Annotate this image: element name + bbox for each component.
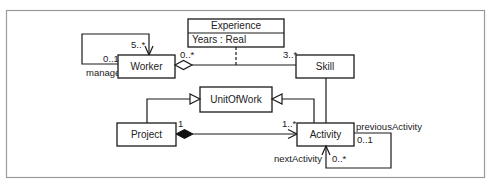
class-name: Skill (316, 61, 334, 72)
class-name: Worker (130, 61, 163, 72)
class-project[interactable]: Project (117, 123, 176, 146)
multiplicity-0-1-manager: 0..1 (103, 53, 119, 64)
class-name: Activity (310, 129, 342, 140)
multiplicity-activity: 1..* (282, 118, 297, 129)
class-name: Project (131, 129, 162, 140)
multiplicity-next: 0..* (332, 153, 347, 164)
multiplicity-project: 1 (178, 118, 183, 129)
class-skill[interactable]: Skill (296, 55, 354, 78)
multiplicity-worker: 0..* (180, 49, 195, 60)
class-experience[interactable]: Experience Years : Real (188, 19, 284, 47)
attribute-years: Years : Real (192, 34, 246, 45)
uml-class-diagram: 5..* 0..1 manager Worker 0..* 3..* Exper… (0, 0, 492, 184)
role-previous-activity: previousActivity (356, 121, 422, 132)
class-unit-of-work[interactable]: UnitOfWork (200, 87, 272, 112)
class-name: UnitOfWork (210, 94, 262, 105)
role-next-activity: nextActivity (274, 153, 322, 164)
class-name: Experience (211, 20, 261, 31)
class-worker[interactable]: Worker (118, 55, 175, 78)
multiplicity-5-many: 5..* (131, 39, 146, 50)
class-activity[interactable]: Activity (297, 123, 354, 146)
multiplicity-previous: 0..1 (357, 134, 373, 145)
